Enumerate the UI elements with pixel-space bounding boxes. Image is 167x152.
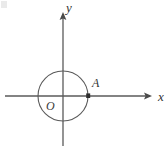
point-a-label: A bbox=[91, 76, 100, 90]
origin-label: O bbox=[46, 99, 55, 113]
x-axis bbox=[5, 93, 152, 100]
coordinate-plane-svg: x y O A bbox=[0, 0, 167, 152]
y-axis bbox=[60, 12, 67, 146]
math-figure-coordinate-plane: x y O A bbox=[0, 0, 167, 152]
y-axis-label: y bbox=[64, 0, 72, 15]
x-axis-label: x bbox=[157, 89, 164, 104]
point-a-marker bbox=[86, 93, 90, 98]
